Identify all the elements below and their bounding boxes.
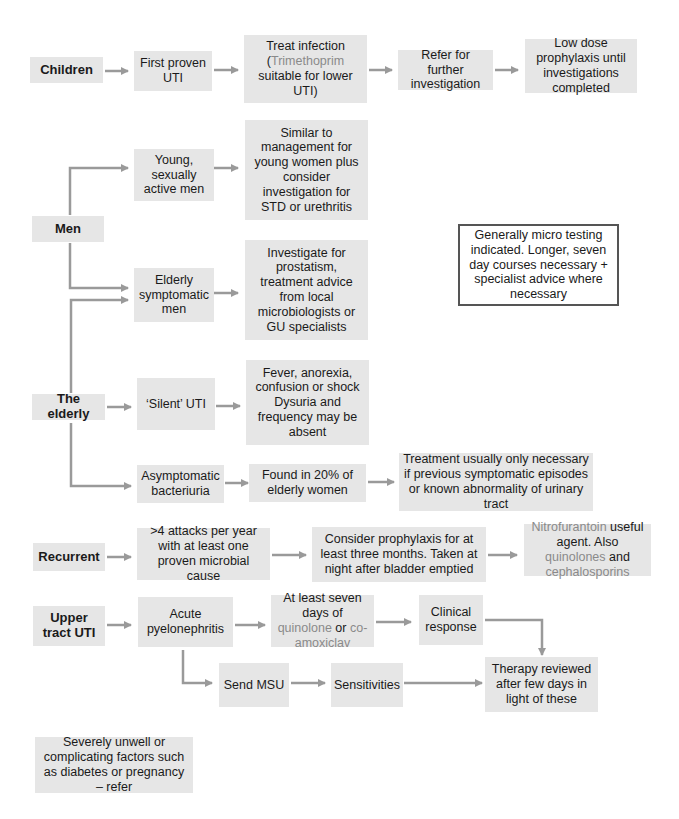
silent-uti-node: ‘Silent’ UTI xyxy=(137,378,215,430)
sensitivities-node: Sensitivities xyxy=(331,663,403,707)
refer-investigation-node: Refer for further investigation xyxy=(398,50,493,90)
silent-uti-label: ‘Silent’ UTI xyxy=(146,397,206,412)
silent-uti-signs-node: Fever, anorexia, confusion or shock Dysu… xyxy=(246,360,369,445)
treat-infection-node: Treat infection(Trimethoprimsuitable for… xyxy=(244,35,367,103)
found-20-percent-label: Found in 20% of elderly women xyxy=(253,468,362,498)
nitrofurantoin-text: Nitrofurantoin useful agent. Also quinol… xyxy=(528,520,647,579)
seven-days-node: At least seven days of quinolone or co-a… xyxy=(271,595,374,647)
treat-infection-text: Treat infection(Trimethoprimsuitable for… xyxy=(248,39,363,98)
quinolone-drug: quinolone xyxy=(278,621,332,635)
attacks-per-year-node: >4 attacks per year with at least one pr… xyxy=(137,528,270,580)
elderly-men-node: Elderly symptomatic men xyxy=(134,268,214,322)
elderly-men-label: Elderly symptomatic men xyxy=(138,273,210,317)
young-men-advice-label: Similar to management for young women pl… xyxy=(249,126,364,215)
attacks-per-year-label: >4 attacks per year with at least one pr… xyxy=(141,524,266,583)
nitrofurantoin-node: Nitrofurantoin useful agent. Also quinol… xyxy=(524,524,651,576)
children-node: Children xyxy=(30,57,103,83)
first-proven-uti-node: First proven UTI xyxy=(134,51,212,91)
found-20-percent-node: Found in 20% of elderly women xyxy=(249,464,366,502)
low-dose-prophylaxis-node: Low dose prophylaxis until investigation… xyxy=(525,39,637,93)
therapy-reviewed-node: Therapy reviewed after few days in light… xyxy=(485,657,598,712)
acute-pyelonephritis-node: Acute pyelonephritis xyxy=(138,597,233,647)
upper-tract-uti-label: Upper tract UTI xyxy=(37,611,101,641)
elderly-men-advice-label: Investigate for prostatism, treatment ad… xyxy=(249,246,364,335)
asymptomatic-bacteriuria-node: Asymptomatic bacteriuria xyxy=(137,465,224,503)
recurrent-node: Recurrent xyxy=(33,543,105,571)
upper-tract-uti-node: Upper tract UTI xyxy=(33,606,105,646)
elderly-label: The elderly xyxy=(36,392,101,422)
severely-unwell-label: Severely unwell or complicating factors … xyxy=(39,735,189,794)
cephalosporins-drug: cephalosporins xyxy=(545,565,629,579)
young-men-label: Young, sexually active men xyxy=(138,153,210,197)
seven-days-text: At least seven days of quinolone or co-a… xyxy=(275,591,370,650)
refer-investigation-label: Refer for further investigation xyxy=(402,48,489,92)
acute-pyelonephritis-label: Acute pyelonephritis xyxy=(142,607,229,637)
consider-prophylaxis-node: Consider prophylaxis for at least three … xyxy=(312,527,486,582)
elderly-node: The elderly xyxy=(32,394,105,420)
therapy-reviewed-label: Therapy reviewed after few days in light… xyxy=(489,662,594,706)
sensitivities-label: Sensitivities xyxy=(334,678,400,693)
clinical-response-node: Clinical response xyxy=(419,595,483,645)
men-label: Men xyxy=(55,222,81,237)
first-proven-uti-label: First proven UTI xyxy=(138,56,208,86)
silent-uti-signs-label: Fever, anorexia, confusion or shock Dysu… xyxy=(250,366,365,440)
quinolones-drug: quinolones xyxy=(545,550,605,564)
recurrent-label: Recurrent xyxy=(38,550,99,565)
micro-testing-note-text: Generally micro testing indicated. Longe… xyxy=(464,228,613,302)
clinical-response-label: Clinical response xyxy=(423,605,479,635)
severely-unwell-note: Severely unwell or complicating factors … xyxy=(35,737,193,793)
trimethoprim-drug: Trimethoprim xyxy=(271,54,344,68)
men-node: Men xyxy=(32,216,104,242)
children-label: Children xyxy=(40,63,93,78)
send-msu-node: Send MSU xyxy=(219,663,289,707)
nitrofurantoin-drug: Nitrofurantoin xyxy=(532,520,607,534)
elderly-men-advice-node: Investigate for prostatism, treatment ad… xyxy=(245,240,368,340)
treatment-necessary-node: Treatment usually only necessary if prev… xyxy=(399,453,593,511)
consider-prophylaxis-label: Consider prophylaxis for at least three … xyxy=(316,532,482,576)
low-dose-prophylaxis-label: Low dose prophylaxis until investigation… xyxy=(529,36,633,95)
send-msu-label: Send MSU xyxy=(224,678,284,693)
young-men-node: Young, sexually active men xyxy=(134,149,214,201)
asymptomatic-bacteriuria-label: Asymptomatic bacteriuria xyxy=(141,469,220,499)
micro-testing-note: Generally micro testing indicated. Longe… xyxy=(458,224,619,306)
young-men-advice-node: Similar to management for young women pl… xyxy=(245,120,368,220)
treatment-necessary-label: Treatment usually only necessary if prev… xyxy=(403,452,589,511)
